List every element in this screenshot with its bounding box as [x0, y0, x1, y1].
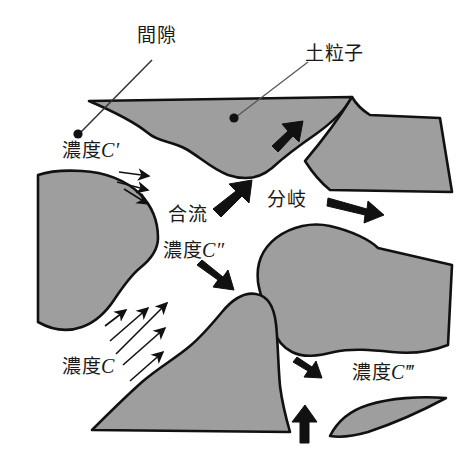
soil-particle-leader-dot [229, 113, 238, 122]
label-conc-word: 濃度 [352, 361, 391, 383]
soil-particle-left [38, 171, 158, 330]
label-c-symbol: C [202, 239, 216, 261]
label-c-symbol: C [101, 355, 115, 377]
label-conc-word: 濃度 [62, 355, 101, 377]
label-concentration-c: 濃度C [62, 356, 115, 376]
label-concentration-c-triple-prime: 濃度C‴ [352, 362, 412, 382]
thin-arrow [105, 310, 126, 326]
thin-arrow [119, 172, 149, 176]
soil-particle-bottom-right [330, 397, 446, 437]
label-concentration-c-prime: 濃度C′ [62, 140, 118, 160]
label-concentration-c-double-prime: 濃度C″ [163, 240, 223, 260]
thick-arrow-outflow-lower-right [293, 357, 322, 378]
label-conc-word: 濃度 [62, 139, 101, 161]
soil-particle-right [258, 225, 452, 356]
label-pore: 間隙 [137, 26, 176, 45]
thick-arrow-merge-out [213, 180, 252, 217]
thin-arrow [110, 308, 148, 341]
label-c-symbol: C [391, 361, 405, 383]
label-soil-particle: 土粒子 [305, 44, 364, 63]
pore-leader-dot [73, 129, 82, 138]
diagram-canvas [0, 0, 461, 470]
pore-flow-diagram: 間隙 土粒子 濃度C′ 合流 濃度C″ 分岐 濃度C 濃度C‴ [0, 0, 461, 470]
label-branching: 分岐 [267, 190, 306, 209]
label-c-symbol: C [101, 139, 115, 161]
label-prime-single: ′ [115, 139, 118, 161]
thin-arrow [123, 328, 165, 365]
thick-arrow-outflow-bottom [292, 405, 317, 443]
thick-arrow-split-right [327, 198, 384, 223]
thick-arrow-split-down [197, 260, 234, 290]
label-confluence: 合流 [168, 205, 207, 224]
label-prime-triple: ‴ [405, 361, 412, 383]
label-conc-word: 濃度 [163, 239, 202, 261]
label-prime-double: ″ [216, 239, 223, 261]
soil-particle-bottom [92, 294, 290, 432]
